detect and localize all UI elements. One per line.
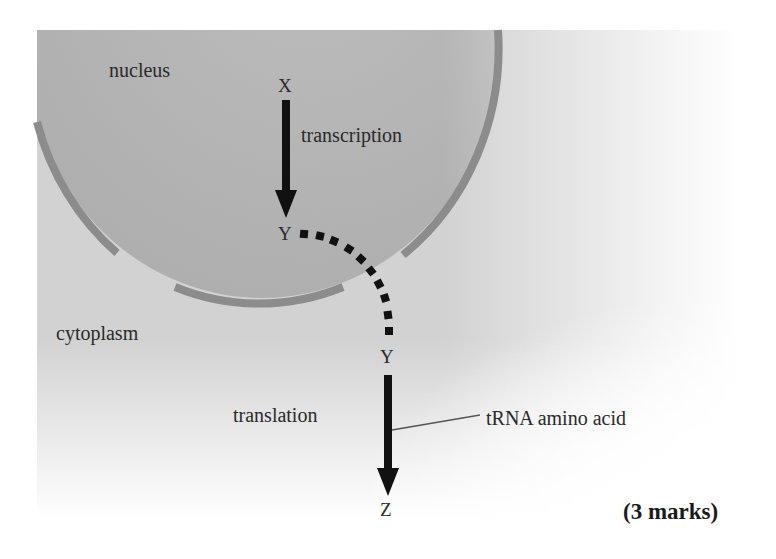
molecule-x-label: X (278, 76, 292, 95)
marks-label: (3 marks) (623, 500, 718, 523)
cytoplasm-label: cytoplasm (56, 323, 138, 343)
cell-diagram: nucleus cytoplasm transcription translat… (0, 0, 776, 559)
trna-callout-label: tRNA amino acid (486, 408, 626, 428)
molecule-y-cytoplasm-label: Y (380, 347, 394, 366)
nucleus-label: nucleus (109, 60, 170, 80)
molecule-y-nucleus-label: Y (278, 224, 292, 243)
molecule-z-label: Z (380, 500, 392, 519)
translation-label: translation (233, 405, 317, 425)
diagram-graphics (0, 0, 776, 559)
transcription-label: transcription (301, 125, 402, 145)
